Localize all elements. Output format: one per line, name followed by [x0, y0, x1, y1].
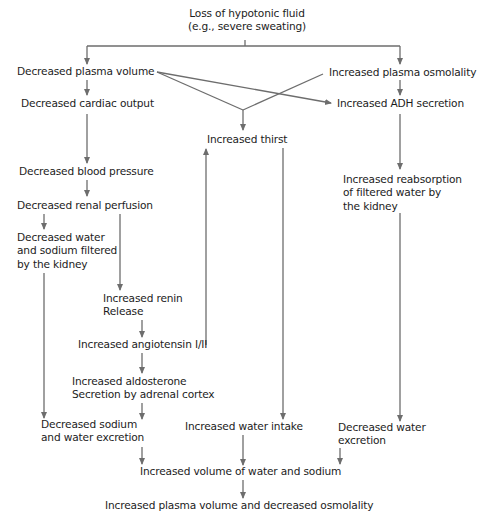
node-increased-aldosterone: Increased aldosterone Secretion by adren…: [72, 375, 214, 402]
node-decreased-cardiac-output: Decreased cardiac output: [21, 97, 154, 110]
title-line: Loss of hypotonic fluid: [147, 7, 347, 20]
node-increased-reabsorption: Increased reabsorption of filtered water…: [343, 173, 462, 213]
node-decreased-water-excretion: Decreased water excretion: [338, 421, 426, 448]
node-decreased-blood-pressure: Decreased blood pressure: [19, 165, 154, 178]
diag-volume-to-thirst: [157, 72, 243, 110]
node-increased-renin-release: Increased renin Release: [103, 292, 183, 319]
node-increased-angiotensin: Increased angiotensin I/II: [78, 338, 207, 351]
node-decreased-renal-perfusion: Decreased renal perfusion: [17, 199, 153, 212]
node-increased-thirst: Increased thirst: [207, 133, 287, 146]
node-decreased-sodium-water-excretion: Decreased sodium and water excretion: [41, 418, 144, 445]
node-increased-plasma-osmolality: Increased plasma osmolality: [329, 66, 476, 79]
flowchart-canvas: Loss of hypotonic fluid (e.g., severe sw…: [0, 0, 494, 526]
node-increased-water-intake: Increased water intake: [185, 420, 303, 433]
node-final-outcome: Increased plasma volume and decreased os…: [105, 499, 373, 512]
node-loss-of-hypotonic-fluid: Loss of hypotonic fluid (e.g., severe sw…: [147, 7, 347, 34]
diag-volume-to-adh: [157, 72, 331, 103]
node-decreased-water-sodium-filtered: Decreased water and sodium filtered by t…: [17, 231, 117, 271]
title-sub-line: (e.g., severe sweating): [147, 20, 347, 33]
node-increased-volume-water-sodium: Increased volume of water and sodium: [140, 465, 341, 478]
node-decreased-plasma-volume: Decreased plasma volume: [17, 65, 154, 78]
diag-osmolality-to-thirst: [243, 74, 323, 110]
node-increased-adh-secretion: Increased ADH secretion: [337, 97, 464, 110]
